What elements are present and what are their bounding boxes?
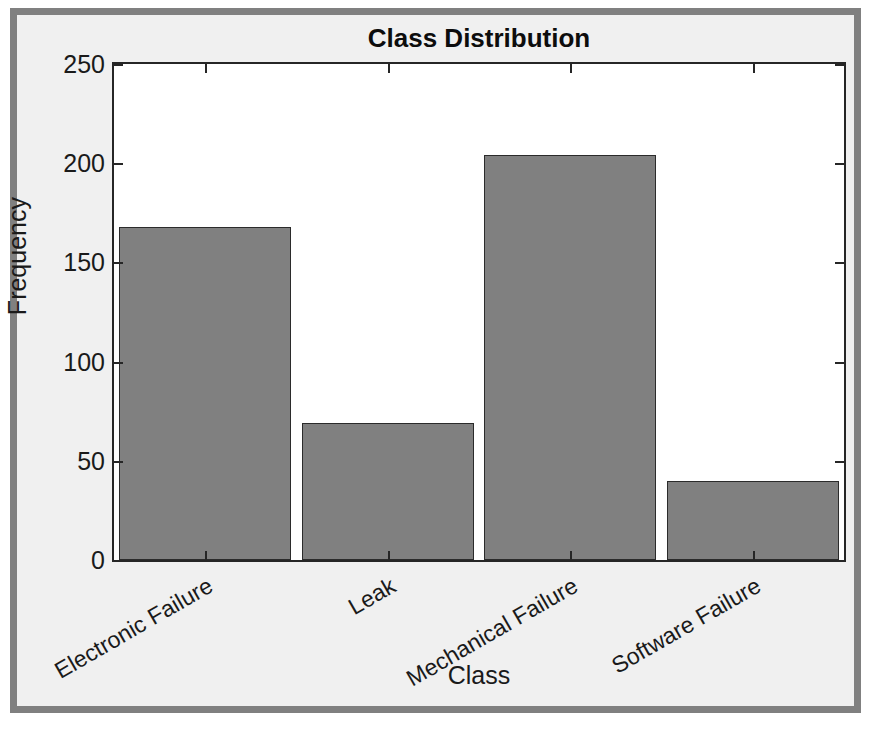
bar <box>484 155 656 560</box>
y-tick-mark-right <box>835 64 844 66</box>
y-tick-label: 100 <box>63 349 105 374</box>
y-tick-mark <box>114 163 123 165</box>
y-tick-mark-right <box>835 560 844 562</box>
bar <box>119 227 291 560</box>
y-tick-label: 200 <box>63 151 105 176</box>
bar <box>667 481 839 560</box>
y-tick-label: 50 <box>77 448 105 473</box>
y-tick-mark-right <box>835 461 844 463</box>
bar <box>302 423 474 560</box>
x-tick-mark-top <box>753 64 755 73</box>
x-tick-mark-top <box>388 64 390 73</box>
y-tick-mark-right <box>835 262 844 264</box>
x-tick-mark <box>388 551 390 560</box>
y-tick-mark <box>114 461 123 463</box>
y-tick-label: 0 <box>91 548 105 573</box>
x-tick-mark <box>753 551 755 560</box>
chart-title: Class Distribution <box>112 25 846 51</box>
y-tick-label: 250 <box>63 52 105 77</box>
y-tick-mark <box>114 64 123 66</box>
x-tick-mark-top <box>570 64 572 73</box>
x-axis-label: Class <box>112 663 846 688</box>
axes-region: 050100150200250Electronic FailureLeakMec… <box>112 62 846 562</box>
y-tick-mark <box>114 262 123 264</box>
x-tick-mark-top <box>205 64 207 73</box>
figure-canvas: Class Distribution Frequency 05010015020… <box>17 15 854 706</box>
y-tick-mark-right <box>835 163 844 165</box>
figure-window: Class Distribution Frequency 05010015020… <box>10 8 861 713</box>
y-tick-mark <box>114 362 123 364</box>
y-tick-mark <box>114 560 123 562</box>
x-tick-mark <box>570 551 572 560</box>
x-tick-label: Leak <box>345 574 400 619</box>
x-tick-mark <box>205 551 207 560</box>
y-tick-label: 150 <box>63 250 105 275</box>
y-axis-label: Frequency <box>5 197 30 315</box>
y-tick-mark-right <box>835 362 844 364</box>
plot-area: 050100150200250Electronic FailureLeakMec… <box>114 64 844 560</box>
